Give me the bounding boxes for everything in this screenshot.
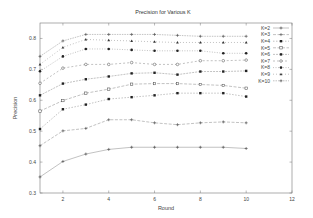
y-tick-label: 0.3 (29, 190, 36, 196)
legend-label: K=3 (261, 31, 270, 37)
legend-item: K=6 (261, 51, 289, 57)
series-k-5 (39, 82, 248, 112)
legend-item: K=4 (261, 38, 289, 44)
precision-line-chart: Precision for Various K 24681012 0.30.40… (0, 0, 313, 218)
series-k-4 (39, 92, 248, 130)
y-tick-label: 0.6 (29, 97, 36, 103)
y-axis-label: Precision (12, 97, 18, 120)
x-tick-label: 12 (289, 196, 295, 202)
legend-label: K=2 (261, 25, 270, 31)
legend-item: K=2 (261, 25, 289, 31)
legend-label: K=6 (261, 51, 270, 57)
legend-label: K=9 (261, 71, 270, 77)
legend-label: K=10 (258, 78, 270, 84)
legend-item: K=8 (261, 64, 289, 70)
x-tick-label: 10 (243, 196, 249, 202)
chart-title: Precision for Various K (135, 9, 191, 15)
y-tick-label: 0.8 (29, 35, 36, 41)
series-k-8 (39, 48, 248, 73)
y-tick-label: 0.4 (29, 159, 36, 165)
y-tick-label: 0.5 (29, 128, 36, 134)
legend-label: K=4 (261, 38, 270, 44)
x-tick-label: 6 (153, 196, 156, 202)
data-series (39, 33, 248, 178)
x-tick-label: 2 (62, 196, 65, 202)
series-k-10 (39, 33, 248, 58)
x-tick-label: 4 (107, 196, 110, 202)
legend-item: K=5 (261, 45, 289, 51)
legend-item: K=9 (261, 71, 289, 77)
plot-area (40, 23, 292, 193)
series-k-3 (39, 118, 248, 147)
legend-label: K=5 (261, 45, 270, 51)
series-k-9 (39, 38, 248, 66)
series-k-2 (39, 146, 248, 179)
legend-item: K=3 (261, 31, 289, 37)
y-tick-label: 0.7 (29, 66, 36, 72)
x-axis-label: Round (158, 205, 174, 211)
legend-label: K=7 (261, 58, 270, 64)
series-k-6 (39, 70, 248, 97)
legend-label: K=8 (261, 64, 270, 70)
x-tick-label: 8 (199, 196, 202, 202)
legend: K=2K=3K=4K=5K=6K=7K=8K=9K=10 (258, 25, 289, 84)
y-axis-ticks: 0.30.40.50.60.70.8 (29, 35, 292, 196)
legend-item: K=7 (261, 58, 289, 64)
legend-item: K=10 (258, 78, 289, 84)
